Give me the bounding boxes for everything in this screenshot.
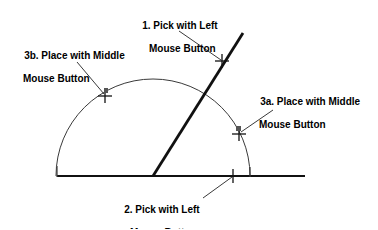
annotation-pick-left-2-line1: 2. Pick with Left bbox=[124, 204, 200, 215]
annotation-place-middle-3b: 3b. Place with Middle Mouse Button bbox=[13, 38, 125, 107]
marker-pick-2-icon bbox=[226, 169, 240, 183]
annotation-pick-left-1: 1. Pick with Left Mouse Button bbox=[131, 8, 218, 77]
annotation-place-middle-3a-line2: Mouse Button bbox=[249, 119, 360, 131]
annotation-place-middle-3a-line1: 3a. Place with Middle bbox=[260, 96, 360, 107]
annotation-pick-left-2-line2: Mouse Button bbox=[113, 227, 200, 230]
annotation-place-middle-3a: 3a. Place with Middle Mouse Button bbox=[249, 84, 360, 153]
annotation-place-middle-3b-line1: 3b. Place with Middle bbox=[24, 50, 125, 61]
annotation-place-middle-3b-line2: Mouse Button bbox=[13, 73, 125, 85]
annotation-pick-left-2: 2. Pick with Left Mouse Button bbox=[113, 192, 200, 229]
leader-pick-2 bbox=[203, 177, 232, 198]
marker-place-3a-icon bbox=[232, 126, 246, 141]
instruction-diagram: 1. Pick with Left Mouse Button 3b. Place… bbox=[0, 0, 378, 229]
annotation-pick-left-1-line1: 1. Pick with Left bbox=[142, 20, 218, 31]
annotation-pick-left-1-line2: Mouse Button bbox=[131, 43, 218, 55]
